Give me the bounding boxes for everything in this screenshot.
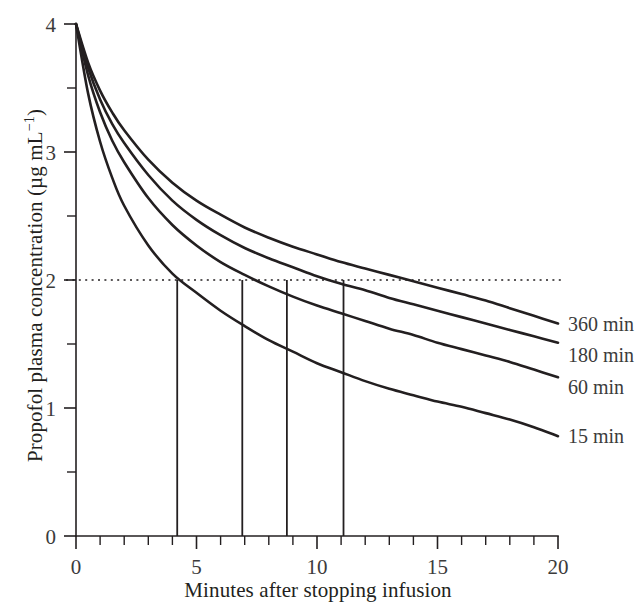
- y-axis-title: Propofol plasma concentration (µg mL−1): [21, 66, 48, 506]
- curve-180-min: [76, 24, 558, 343]
- y-tick-label-4: 4: [46, 13, 57, 37]
- series-label-180-min: 180 min: [568, 344, 634, 366]
- y-tick-label-0: 0: [46, 525, 57, 549]
- curve-15-min: [76, 24, 558, 436]
- series-label-15-min: 15 min: [568, 425, 624, 447]
- series-label-60-min: 60 min: [568, 376, 624, 398]
- x-tick-label-5: 5: [191, 555, 202, 579]
- chart-canvas: 4 3 2 1 0 0 5 10 15 20 360 min 180 min 6…: [0, 0, 636, 604]
- x-tick-label-10: 10: [307, 555, 328, 579]
- y-axis-title-prefix: Propofol plasma concentration (µg mL: [23, 131, 47, 462]
- x-axis-title: Minutes after stopping infusion: [0, 578, 636, 603]
- y-axis-title-exponent: −1: [21, 116, 37, 131]
- propofol-context-sensitive-decrement-chart: 4 3 2 1 0 0 5 10 15 20 360 min 180 min 6…: [0, 0, 636, 604]
- series-label-360-min: 360 min: [568, 313, 634, 335]
- y-axis-title-suffix: ): [23, 109, 47, 116]
- decrement-droplines: [177, 280, 343, 536]
- x-tick-label-15: 15: [427, 555, 448, 579]
- x-tick-label-0: 0: [71, 555, 82, 579]
- x-tick-label-20: 20: [548, 555, 569, 579]
